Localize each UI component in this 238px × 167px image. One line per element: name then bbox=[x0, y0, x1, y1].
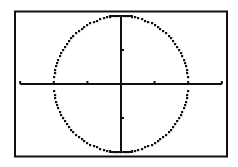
circle-point bbox=[186, 94, 188, 96]
circle-point bbox=[83, 26, 85, 28]
circle-point bbox=[144, 146, 146, 148]
circle-point bbox=[157, 140, 159, 142]
circle-point bbox=[178, 49, 180, 51]
circle-point bbox=[127, 15, 129, 17]
circle-point bbox=[187, 76, 189, 78]
circle-point bbox=[186, 72, 188, 74]
x-tick bbox=[187, 81, 189, 84]
circle-point bbox=[116, 151, 118, 153]
y-tick bbox=[122, 49, 124, 51]
circle-point bbox=[181, 111, 183, 113]
circle-point bbox=[120, 15, 122, 17]
x-tick bbox=[221, 81, 223, 84]
circle-point bbox=[70, 37, 72, 39]
circle-point bbox=[159, 138, 161, 140]
circle-point bbox=[157, 26, 159, 28]
circle-point bbox=[183, 59, 185, 61]
circle-point bbox=[180, 52, 182, 54]
circle-point bbox=[165, 134, 167, 136]
circle-point bbox=[180, 114, 182, 116]
circle-point bbox=[170, 129, 172, 131]
circle-point bbox=[57, 107, 59, 109]
circle-point bbox=[184, 104, 186, 106]
circle-point bbox=[103, 17, 105, 19]
circle-point bbox=[127, 151, 129, 153]
circle-point bbox=[103, 149, 105, 151]
circle-point bbox=[54, 97, 56, 99]
circle-point bbox=[62, 117, 64, 119]
circle-point bbox=[54, 72, 56, 74]
circle-point bbox=[106, 150, 108, 152]
circle-point bbox=[184, 62, 186, 64]
circle-point bbox=[93, 21, 95, 23]
circle-point bbox=[147, 21, 149, 23]
circle-point bbox=[154, 24, 156, 26]
circle-point bbox=[56, 62, 58, 64]
x-tick bbox=[53, 81, 55, 84]
circle-point bbox=[137, 17, 139, 19]
circle-point bbox=[159, 28, 161, 30]
circle-point bbox=[120, 151, 122, 153]
circle-point bbox=[131, 150, 133, 152]
circle-point bbox=[106, 16, 108, 18]
circle-point bbox=[68, 40, 70, 42]
circle-point bbox=[124, 151, 126, 153]
circle-point bbox=[113, 15, 115, 17]
circle-point bbox=[53, 90, 55, 92]
y-tick bbox=[122, 117, 124, 119]
circle-point bbox=[183, 107, 185, 109]
circle-point bbox=[89, 22, 91, 24]
circle-point bbox=[62, 49, 64, 51]
circle-point bbox=[186, 97, 188, 99]
circle-point bbox=[78, 30, 80, 32]
circle-point bbox=[72, 35, 74, 37]
circle-point bbox=[124, 15, 126, 17]
circle-point bbox=[162, 136, 164, 138]
circle-point bbox=[185, 65, 187, 67]
circle-point bbox=[109, 16, 111, 18]
circle-point bbox=[151, 144, 153, 146]
circle-point bbox=[154, 142, 156, 144]
circle-point bbox=[68, 126, 70, 128]
circle-point bbox=[174, 43, 176, 45]
circle-point bbox=[187, 90, 189, 92]
circle-point bbox=[113, 151, 115, 153]
circle-point bbox=[172, 126, 174, 128]
graph-plot bbox=[0, 0, 238, 167]
circle-point bbox=[144, 20, 146, 22]
circle-point bbox=[81, 138, 83, 140]
circle-point bbox=[78, 136, 80, 138]
circle-point bbox=[55, 101, 57, 103]
circle-point bbox=[109, 150, 111, 152]
circle-point bbox=[168, 35, 170, 37]
circle-point bbox=[54, 94, 56, 96]
circle-point bbox=[99, 148, 101, 150]
circle-point bbox=[56, 104, 58, 106]
circle-point bbox=[168, 131, 170, 133]
circle-point bbox=[59, 111, 61, 113]
circle-point bbox=[131, 16, 133, 18]
circle-point bbox=[57, 59, 59, 61]
circle-point bbox=[176, 46, 178, 48]
circle-point bbox=[147, 145, 149, 147]
circle-point bbox=[75, 134, 77, 136]
circle-point bbox=[86, 142, 88, 144]
circle-point bbox=[55, 65, 57, 67]
circle-point bbox=[86, 24, 88, 26]
circle-point bbox=[54, 69, 56, 71]
x-tick bbox=[86, 81, 88, 84]
circle-point bbox=[60, 114, 62, 116]
calculator-graph-screen bbox=[0, 0, 238, 167]
circle-point bbox=[66, 123, 68, 125]
circle-point bbox=[141, 148, 143, 150]
circle-point bbox=[181, 55, 183, 57]
circle-point bbox=[53, 76, 55, 78]
circle-point bbox=[165, 32, 167, 34]
x-tick bbox=[154, 81, 156, 84]
circle-point bbox=[70, 129, 72, 131]
circle-point bbox=[134, 150, 136, 152]
circle-point bbox=[176, 120, 178, 122]
circle-point bbox=[72, 131, 74, 133]
circle-point bbox=[186, 69, 188, 71]
circle-point bbox=[134, 16, 136, 18]
